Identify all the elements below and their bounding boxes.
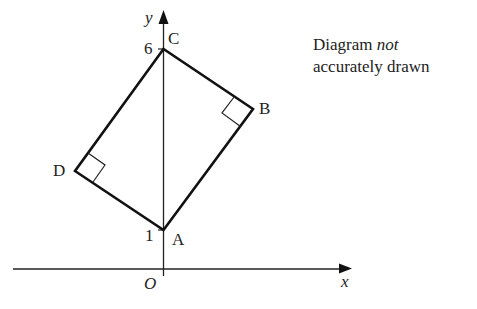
right-angle-d [88, 153, 105, 182]
note-italic: not [377, 35, 399, 54]
note-prefix: Diagram [313, 35, 377, 54]
tick-label-1: 1 [145, 227, 154, 244]
point-label-a: A [172, 231, 184, 248]
point-label-c: C [168, 30, 179, 47]
x-axis-label: x [341, 273, 349, 290]
y-axis-label: y [145, 9, 153, 26]
y-axis-arrow-icon [159, 10, 169, 24]
note-line2: accurately drawn [313, 56, 430, 78]
tick-label-6: 6 [144, 40, 153, 57]
point-label-b: B [259, 100, 270, 117]
origin-label: O [144, 275, 156, 292]
point-label-d: D [53, 162, 65, 179]
right-angle-b [222, 97, 241, 127]
diagram-note: Diagram not accurately drawn [313, 34, 430, 78]
